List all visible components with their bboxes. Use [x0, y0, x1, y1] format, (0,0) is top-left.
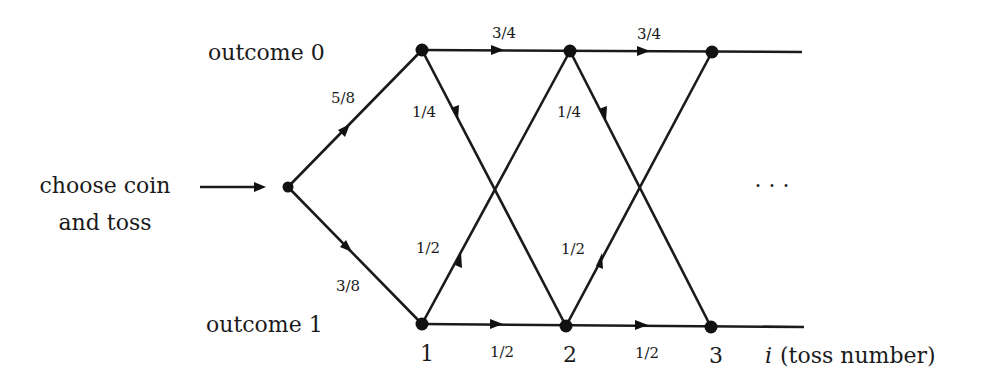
- edges-zero-to-one: [422, 50, 711, 327]
- prob-stay1-step1: 1/2: [490, 343, 514, 361]
- prob-start-outcome0: 5/8: [331, 89, 355, 107]
- node-outcome0-toss3: [706, 46, 719, 59]
- toss-number-2: 2: [563, 342, 577, 367]
- node-outcome1-toss2: [560, 320, 573, 333]
- edge-start-to-outcome1: [288, 187, 422, 324]
- coin-toss-trellis-diagram: choose coin and toss outcome 0 outcome 1…: [0, 0, 998, 388]
- toss-number-1: 1: [420, 341, 434, 366]
- prob-zero-to-one-step2: 1/4: [557, 103, 581, 121]
- prob-start-outcome1: 3/8: [336, 277, 360, 295]
- node-outcome1-toss1: [416, 318, 429, 331]
- toss-number-3: 3: [709, 343, 723, 368]
- edge-start-to-outcome0: [288, 50, 422, 187]
- prob-stay1-step2: 1/2: [635, 344, 659, 362]
- prob-stay0-step2: 3/4: [637, 25, 661, 43]
- state-label-outcome-1: outcome 1: [206, 312, 323, 337]
- prob-stay0-step1: 3/4: [492, 24, 516, 42]
- node-start: [283, 182, 294, 193]
- node-outcome0-toss1: [416, 44, 429, 57]
- prob-one-to-zero-step2: 1/2: [561, 240, 585, 258]
- axis-label-text: (toss number): [780, 343, 936, 368]
- axis-label-variable: i: [765, 343, 772, 368]
- edges-one-to-zero: [422, 51, 712, 326]
- prob-zero-to-one-step1: 1/4: [412, 103, 436, 121]
- edges-bottom-row: [422, 319, 804, 330]
- state-label-outcome-0: outcome 0: [208, 40, 325, 65]
- node-outcome1-toss3: [705, 321, 718, 334]
- ellipsis-continuation: · · ·: [755, 173, 790, 198]
- edges-top-row: [422, 45, 802, 56]
- input-label-line1: choose coin: [39, 173, 170, 198]
- input-arrow: [200, 182, 266, 192]
- node-outcome0-toss2: [564, 45, 577, 58]
- input-label-line2: and toss: [58, 210, 151, 235]
- prob-one-to-zero-step1: 1/2: [416, 239, 440, 257]
